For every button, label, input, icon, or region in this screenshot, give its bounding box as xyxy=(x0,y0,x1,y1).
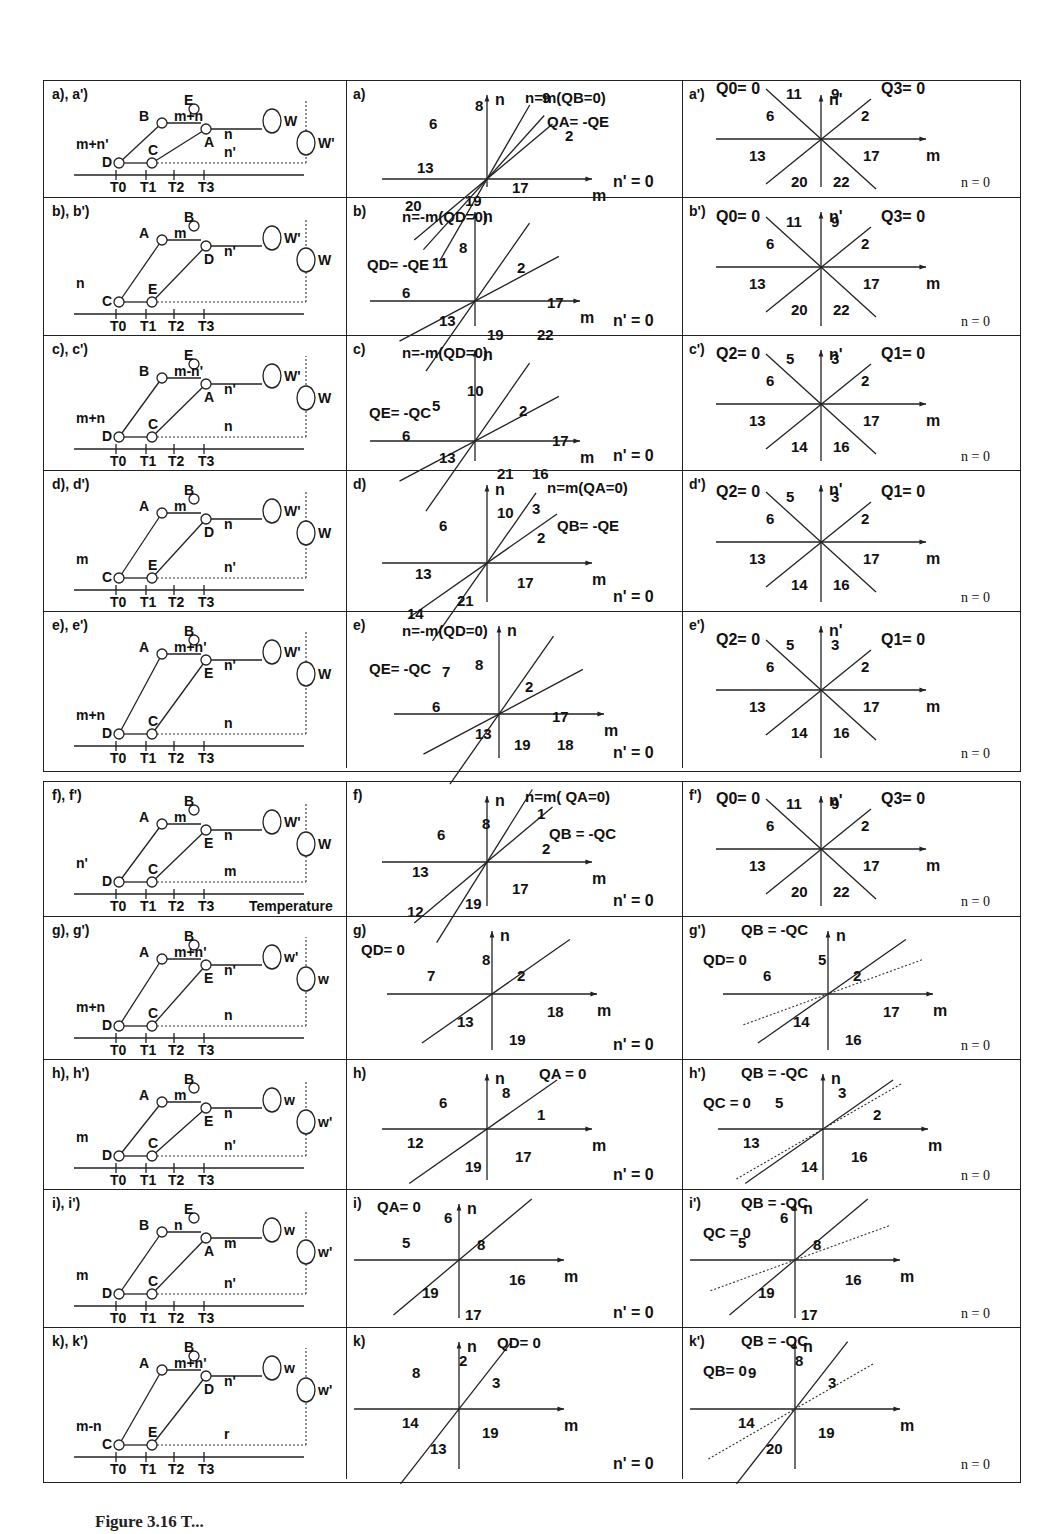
flow-label: m-n xyxy=(76,1418,102,1434)
n-axis-arrowhead-icon xyxy=(819,796,824,803)
m-axis-label: m xyxy=(928,1137,942,1154)
node-circle-icon xyxy=(201,124,211,134)
flow-label: r xyxy=(224,1426,230,1442)
m-axis-arrowhead-icon xyxy=(573,439,580,444)
node-label-D: D xyxy=(102,428,112,444)
n-axis-arrowhead-icon xyxy=(497,626,502,633)
region-number: 5 xyxy=(818,951,826,968)
region-number: 2 xyxy=(861,107,869,124)
region-number: 14 xyxy=(791,438,808,455)
region-number: 17 xyxy=(863,550,880,567)
boundary-note-right: Q1= 0 xyxy=(881,631,925,648)
region-number: 21 xyxy=(457,592,474,609)
region-number: 13 xyxy=(749,857,766,874)
node-circle-icon xyxy=(114,158,124,168)
region-number: 11 xyxy=(432,254,448,271)
plot-label: k) xyxy=(353,1333,365,1349)
region-number: 3 xyxy=(831,636,839,653)
n-axis-arrowhead-icon xyxy=(819,95,824,102)
work-label: W' xyxy=(284,814,301,830)
region-number: 6 xyxy=(766,817,774,834)
tick-label-T3: T3 xyxy=(198,594,215,610)
region-number: 9 xyxy=(831,213,839,230)
node-label-B: B xyxy=(184,928,194,944)
figure-row-i: i), i')T0T1T2T3EBADCnmmn'ww'i)mn65819161… xyxy=(44,1189,1020,1328)
tick-label-T0: T0 xyxy=(110,1461,127,1477)
region-number: 19 xyxy=(422,1284,439,1301)
node-circle-icon xyxy=(147,1021,157,1031)
region-plot-prime: b')mn'Q0= 0Q3= 01196213172022n = 0 xyxy=(683,198,1021,336)
m-axis-label: m xyxy=(592,1137,606,1154)
condition-label: n' = 0 xyxy=(613,312,654,329)
work-wheel-icon xyxy=(297,521,315,545)
boundary-note: QD= 0 xyxy=(703,951,747,968)
m-axis-label: m xyxy=(592,870,606,887)
boundary-line xyxy=(394,1199,532,1315)
region-number: 8 xyxy=(412,1364,420,1381)
plot-cell: i)mn658191617QA= 0n' = 0 xyxy=(346,1190,683,1328)
tick-label-T2: T2 xyxy=(168,750,185,766)
boundary-note: QE= -QC xyxy=(369,660,431,677)
region-number: 3 xyxy=(838,1084,846,1101)
node-label-A: A xyxy=(139,1355,149,1371)
region-number: 7 xyxy=(427,967,435,984)
region-plot-prime: a')mn'Q0= 0Q3= 01196213172022n = 0 xyxy=(683,81,1021,197)
schematic-cell: f), f')T0T1T2T3TemperatureBAEDCmnn'mW'W xyxy=(44,782,346,916)
work-label: W' xyxy=(318,135,335,151)
m-axis-label: m xyxy=(580,309,594,326)
plot-prime-cell: b')mn'Q0= 0Q3= 01196213172022n = 0 xyxy=(682,198,1021,336)
region-plot-prime: k')mn983141920QB = -QCQB= 0n = 0 xyxy=(683,1328,1021,1479)
schematic-label: b), b') xyxy=(52,203,90,219)
m-axis-label: m xyxy=(597,1002,611,1019)
work-label: W' xyxy=(284,230,301,246)
node-circle-icon xyxy=(114,1021,124,1031)
work-wheel-icon xyxy=(263,640,281,664)
boundary-note-left: Q0= 0 xyxy=(716,790,760,807)
node-circle-icon xyxy=(157,508,167,518)
m-axis-label: m xyxy=(592,571,606,588)
node-label-A: A xyxy=(204,389,214,405)
tick-label-T1: T1 xyxy=(140,453,157,469)
region-plot-prime: i')mn658191617QB = -QCQC = 0n = 0 xyxy=(683,1190,1021,1328)
tick-label-T3: T3 xyxy=(198,1461,215,1477)
n-axis-label: n xyxy=(467,1338,477,1355)
n-axis-arrowhead-icon xyxy=(821,1074,826,1081)
tick-label-T3: T3 xyxy=(198,318,215,334)
region-number: 1 xyxy=(537,805,545,822)
cycle-schematic: f), f')T0T1T2T3TemperatureBAEDCmnn'mW'W xyxy=(44,782,346,916)
node-circle-icon xyxy=(201,960,211,970)
n-axis-arrowhead-icon xyxy=(457,1342,462,1349)
region-number: 9 xyxy=(831,85,839,102)
condition-label: n = 0 xyxy=(961,746,990,761)
work-wheel-icon xyxy=(263,364,281,388)
region-plot-prime: f')mn'Q0= 0Q3= 01196213172022n = 0 xyxy=(683,782,1021,916)
node-circle-icon xyxy=(114,1440,124,1450)
plot-label: a') xyxy=(689,86,705,102)
region-number: 9 xyxy=(831,795,839,812)
plot-cell: f)mn681213171912n=m( QA=0)QB = -QCn' = 0 xyxy=(346,782,683,916)
flow-label: m+n' xyxy=(174,639,207,655)
cycle-schematic: b), b')T0T1T2T3BADCEmn'nW'W xyxy=(44,198,346,336)
region-number: 6 xyxy=(429,115,437,132)
region-plot: f)mn681213171912n=m( QA=0)QB = -QCn' = 0 xyxy=(347,782,683,916)
region-number: 19 xyxy=(482,1424,499,1441)
m-axis-label: m xyxy=(926,275,940,292)
plot-label: c) xyxy=(353,341,365,357)
flow-label: n' xyxy=(224,962,236,978)
node-circle-icon xyxy=(157,1227,167,1237)
node-label-B: B xyxy=(184,209,194,225)
m-axis-label: m xyxy=(926,147,940,164)
region-number: 13 xyxy=(415,565,432,582)
m-axis-arrowhead-icon xyxy=(919,402,926,407)
condition-label: n = 0 xyxy=(961,175,990,190)
region-number: 17 xyxy=(801,1306,818,1323)
boundary-line xyxy=(766,809,871,894)
work-wheel-icon xyxy=(263,1088,281,1112)
node-circle-icon xyxy=(114,1289,124,1299)
n-axis-label: n xyxy=(495,481,505,498)
boundary-line xyxy=(745,1080,893,1184)
tick-label-T0: T0 xyxy=(110,453,127,469)
node-label-A: A xyxy=(139,1087,149,1103)
plot-label: c') xyxy=(689,341,705,357)
tick-label-T2: T2 xyxy=(168,179,185,195)
